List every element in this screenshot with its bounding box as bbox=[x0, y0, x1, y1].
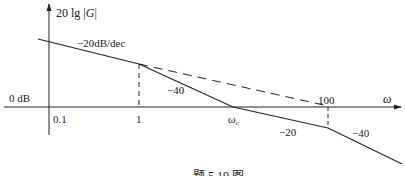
slope-label-minus40-high: −40 bbox=[352, 127, 370, 139]
bode-magnitude-diagram: 20 lg|G| ω 0 dB 0.1 1 100 ωc −20dB/dec −… bbox=[0, 0, 405, 176]
segment-minus20-mid bbox=[233, 107, 328, 128]
tick-label-0.1: 0.1 bbox=[53, 113, 67, 125]
x-axis-label: ω bbox=[383, 92, 391, 106]
tick-label-1: 1 bbox=[136, 113, 142, 125]
zero-db-label: 0 dB bbox=[9, 92, 30, 104]
y-axis-label: 20 lg|G| bbox=[56, 6, 97, 20]
tick-label-100: 100 bbox=[318, 94, 335, 106]
slope-label-minus20dbdec: −20dB/dec bbox=[77, 37, 125, 49]
segment-minus40 bbox=[139, 64, 233, 107]
figure-caption: 题 5.19 图 bbox=[193, 169, 244, 176]
crossover-frequency-label: ωc bbox=[228, 113, 239, 127]
slope-label-minus40: −40 bbox=[167, 84, 185, 96]
slope-label-minus20: −20 bbox=[279, 126, 297, 138]
